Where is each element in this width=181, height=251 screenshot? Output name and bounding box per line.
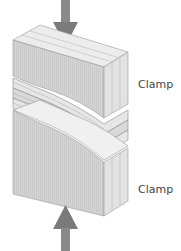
top-clamp-label: Clamp [138,78,173,91]
bottom-clamp-label: Clamp [138,183,173,196]
bottom-force-arrow [53,205,78,251]
bottom-clamp [13,100,128,216]
clamp-diagram [0,0,181,251]
